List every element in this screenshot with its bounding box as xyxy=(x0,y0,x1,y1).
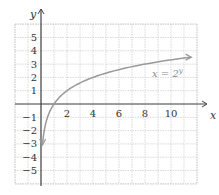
y-tick-label: 1 xyxy=(31,85,37,96)
x-tick-label: 4 xyxy=(90,108,96,119)
x-tick-label: 8 xyxy=(142,108,148,119)
x-axis-label: x xyxy=(210,109,217,122)
y-tick-label: −3 xyxy=(22,138,37,149)
chart-canvas: x y 24681054321−1−2−3−4−5 x = 2y xyxy=(0,0,219,195)
y-tick-label: −2 xyxy=(22,125,37,136)
curve-label-exponent: y xyxy=(178,67,184,75)
curve-label-base: x = 2 xyxy=(152,68,179,79)
y-tick-label: 5 xyxy=(31,32,37,43)
axes: x y xyxy=(15,8,217,186)
x-tick-label: 2 xyxy=(64,108,70,119)
y-tick-label: 4 xyxy=(31,45,37,56)
y-tick-label: −4 xyxy=(22,152,37,163)
y-tick-label: 2 xyxy=(31,72,37,83)
y-tick-label: −5 xyxy=(22,165,37,176)
y-tick-label: 3 xyxy=(31,59,37,70)
x-tick-label: 10 xyxy=(165,108,178,119)
y-axis-label: y xyxy=(29,8,37,21)
x-tick-label: 6 xyxy=(116,108,122,119)
y-tick-label: −1 xyxy=(22,112,37,123)
